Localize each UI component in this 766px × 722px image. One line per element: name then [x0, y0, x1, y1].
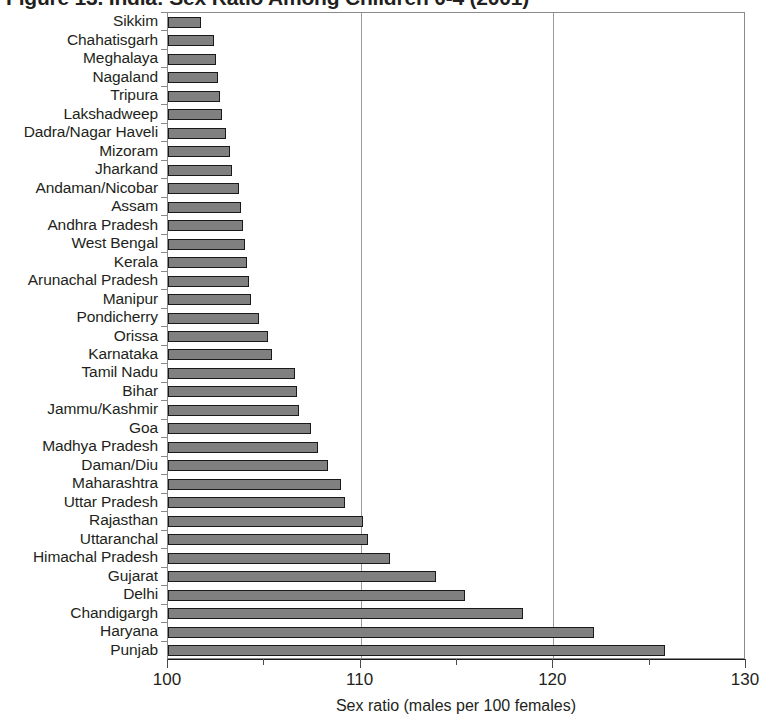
y-axis-label-meghalaya: Meghalaya	[83, 49, 158, 67]
y-axis-label-uttar-pradesh: Uttar Pradesh	[64, 493, 158, 511]
y-axis-label-gujarat: Gujarat	[108, 567, 158, 585]
bar	[168, 276, 249, 287]
bar	[168, 442, 318, 453]
bar-row	[168, 494, 744, 512]
x-axis-tick-105	[263, 659, 264, 665]
bar	[168, 220, 243, 231]
y-axis-label-bihar: Bihar	[122, 382, 158, 400]
y-axis-label-assam: Assam	[111, 197, 158, 215]
bar-row	[168, 383, 744, 401]
y-axis-category-labels: SikkimChahatisgarhMeghalayaNagalandTripu…	[0, 12, 163, 659]
bar-row	[168, 290, 744, 308]
bar-row	[168, 512, 744, 530]
y-axis-label-karnataka: Karnataka	[88, 345, 158, 363]
bar	[168, 571, 436, 582]
x-axis-tick-label-120: 120	[538, 670, 566, 690]
bar	[168, 479, 341, 490]
bar-series	[168, 13, 744, 658]
bar	[168, 590, 465, 601]
bar	[168, 516, 363, 527]
bar-row	[168, 235, 744, 253]
bar-row	[168, 327, 744, 345]
y-axis-label-tripura: Tripura	[110, 86, 158, 104]
y-axis-label-daman-diu: Daman/Diu	[81, 456, 158, 474]
y-axis-label-sikkim: Sikkim	[113, 12, 158, 30]
bar-row	[168, 272, 744, 290]
bar	[168, 460, 328, 471]
bar	[168, 386, 297, 397]
bar-row	[168, 438, 744, 456]
bar-row	[168, 87, 744, 105]
bar-row	[168, 179, 744, 197]
x-axis-tick-115	[456, 659, 457, 665]
bar	[168, 109, 222, 120]
bar-row	[168, 605, 744, 623]
bar	[168, 553, 390, 564]
bar	[168, 146, 230, 157]
bar-row	[168, 401, 744, 419]
bar-row	[168, 346, 744, 364]
bar	[168, 165, 232, 176]
x-axis-tick-125	[649, 659, 650, 665]
bar-row	[168, 475, 744, 493]
y-axis-label-chandigargh: Chandigargh	[70, 604, 158, 622]
bar-row	[168, 124, 744, 142]
x-axis-tick-label-100: 100	[153, 670, 181, 690]
bar-row	[168, 253, 744, 271]
bar	[168, 313, 259, 324]
bar	[168, 627, 594, 638]
bar-row	[168, 68, 744, 86]
bar	[168, 405, 299, 416]
y-axis-label-rajasthan: Rajasthan	[89, 511, 158, 529]
bar	[168, 128, 226, 139]
y-axis-label-orissa: Orissa	[114, 327, 158, 345]
y-axis-label-chahatisgarh: Chahatisgarh	[67, 31, 158, 49]
bar-row	[168, 161, 744, 179]
bar	[168, 17, 201, 28]
y-axis-label-delhi: Delhi	[123, 585, 158, 603]
y-axis-label-kerala: Kerala	[114, 253, 158, 271]
bar	[168, 423, 311, 434]
bar-row	[168, 457, 744, 475]
x-axis-tick-110	[360, 659, 361, 668]
y-axis-label-madhya-pradesh: Madhya Pradesh	[42, 437, 158, 455]
bar-row	[168, 531, 744, 549]
bar-row	[168, 142, 744, 160]
y-axis-label-mizoram: Mizoram	[99, 142, 158, 160]
bar	[168, 294, 251, 305]
y-axis-label-west-bengal: West Bengal	[72, 234, 159, 252]
y-axis-label-dadra-nagar-haveli: Dadra/Nagar Haveli	[24, 123, 158, 141]
y-axis-label-tamil-nadu: Tamil Nadu	[81, 363, 158, 381]
bar	[168, 202, 241, 213]
bar	[168, 35, 214, 46]
bar-row	[168, 364, 744, 382]
bar-row	[168, 309, 744, 327]
y-axis-label-andhra-pradesh: Andhra Pradesh	[47, 216, 158, 234]
x-axis-tick-130	[745, 659, 746, 668]
x-axis-tick-120	[552, 659, 553, 668]
bar-row	[168, 216, 744, 234]
plot-area	[167, 12, 745, 659]
bar-row	[168, 586, 744, 604]
y-axis-label-manipur: Manipur	[103, 290, 158, 308]
bar-row	[168, 420, 744, 438]
y-axis-label-jammu-kashmir: Jammu/Kashmir	[47, 400, 158, 418]
y-axis-label-goa: Goa	[129, 419, 158, 437]
y-axis-label-lakshadweep: Lakshadweep	[63, 105, 158, 123]
bar	[168, 608, 523, 619]
y-axis-label-pondicherry: Pondicherry	[76, 308, 158, 326]
bar	[168, 54, 216, 65]
bar-row	[168, 568, 744, 586]
y-axis-label-maharashtra: Maharashtra	[72, 474, 158, 492]
bar	[168, 368, 295, 379]
y-axis-label-punjab: Punjab	[110, 641, 158, 659]
bar-row	[168, 13, 744, 31]
bar	[168, 257, 247, 268]
bar-row	[168, 50, 744, 68]
bar-row	[168, 31, 744, 49]
y-axis-label-arunachal-pradesh: Arunachal Pradesh	[28, 271, 158, 289]
y-axis-label-uttaranchal: Uttaranchal	[80, 530, 158, 548]
bar	[168, 183, 239, 194]
bar	[168, 91, 220, 102]
bar	[168, 72, 218, 83]
